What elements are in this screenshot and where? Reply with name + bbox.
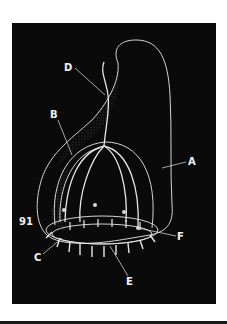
label-a: A [188, 157, 196, 167]
label-d: D [64, 63, 72, 73]
label-b: B [50, 110, 58, 120]
label-f: F [177, 232, 184, 242]
figure-number: 91 [19, 217, 33, 227]
label-e: E [126, 277, 133, 287]
label-c: C [34, 253, 41, 263]
